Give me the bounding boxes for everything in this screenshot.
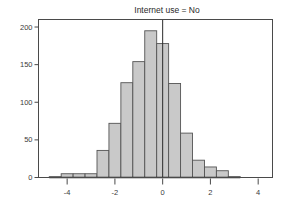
histogram-bar (133, 62, 145, 178)
x-tick-label: -2 (112, 188, 119, 197)
x-tick-label: 4 (256, 188, 260, 197)
x-tick-label: 2 (208, 188, 212, 197)
histogram-bar (181, 133, 193, 177)
y-tick-label: 200 (20, 23, 33, 32)
bars-group (49, 31, 240, 178)
x-tick-label: -4 (64, 188, 71, 197)
y-axis: 050100150200 (20, 23, 39, 182)
histogram-bar (216, 171, 228, 178)
histogram-bar (204, 167, 216, 178)
histogram-bar (169, 83, 181, 177)
y-tick-label: 100 (20, 98, 33, 107)
y-tick-label: 150 (20, 60, 33, 69)
chart-title: Internet use = No (134, 5, 200, 15)
histogram-chart: Internet use = No 050100150200 -4-2024 (0, 0, 289, 215)
histogram-bar (145, 31, 157, 178)
chart-canvas: Internet use = No 050100150200 -4-2024 (0, 0, 289, 215)
histogram-bar (121, 83, 133, 178)
y-tick-label: 0 (28, 173, 32, 182)
y-tick-label: 50 (24, 135, 32, 144)
histogram-bar (109, 123, 121, 177)
histogram-bar (193, 160, 205, 177)
x-tick-label: 0 (161, 188, 165, 197)
x-axis: -4-2024 (64, 179, 260, 197)
histogram-bar (97, 150, 109, 177)
